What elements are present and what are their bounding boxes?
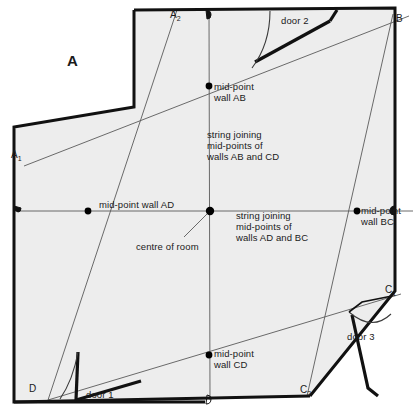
marker-centre-of-room (206, 207, 214, 215)
midpoint-wall-bc-label: mid-point wall BC (361, 205, 401, 227)
corner-label-a2: A2 (170, 9, 181, 24)
room-survey-diagram: A A1 A2 B C1 C2 D mid-point wall AB stri… (0, 0, 415, 415)
marker-midpoint-wall-bc (354, 208, 361, 215)
corner-a2-sub: 2 (177, 15, 181, 22)
room-plan-svg (0, 0, 415, 415)
string-ad-bc-label: string joining mid-points of walls AD an… (236, 210, 308, 243)
midpoint-wall-ab-label: mid-point wall AB (214, 81, 254, 103)
corner-label-c1: C1 (385, 284, 396, 299)
door-3-label: door 3 (347, 331, 375, 342)
corner-c2-sub: 2 (307, 390, 311, 397)
centre-of-room-label: centre of room (136, 241, 199, 252)
corner-label-c2: C2 (300, 384, 311, 399)
marker-midpoint-wall-ab (206, 83, 213, 90)
door-2-label: door 2 (281, 15, 309, 26)
corner-label-d: D (29, 383, 36, 398)
corner-b-text: B (396, 13, 403, 24)
midpoint-wall-cd-label: mid-point wall CD (214, 348, 254, 370)
midpoint-wall-ad-label: mid-point wall AD (99, 199, 174, 210)
corner-label-b: B (396, 13, 403, 28)
corner-d-text: D (29, 383, 36, 394)
corner-label-a1: A1 (11, 149, 22, 164)
figure-label-a: A (67, 55, 78, 66)
corner-a1-text: A (11, 149, 18, 160)
marker-midpoint-wall-cd (206, 352, 213, 359)
corner-a2-text: A (170, 9, 177, 20)
pin-top-wall-icon (206, 10, 211, 19)
door-1-label: door 1 (86, 389, 114, 400)
marker-midpoint-wall-ad (85, 208, 92, 215)
string-ab-cd-label: string joining mid-points of walls AB an… (207, 129, 279, 162)
corner-a1-sub: 1 (18, 155, 22, 162)
corner-c1-sub: 1 (392, 290, 396, 297)
